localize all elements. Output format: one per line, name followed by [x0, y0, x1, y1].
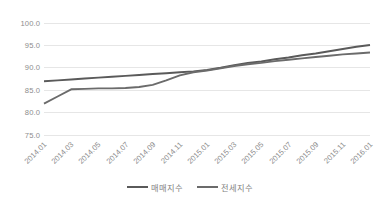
x-tick-label: 2014.07	[104, 140, 130, 166]
x-axis: 2014.012014.032014.052014.072014.092014.…	[0, 0, 380, 203]
legend-label: 전세지수	[221, 181, 253, 193]
x-tick-label: 2014.03	[50, 140, 76, 166]
legend-line-icon	[127, 186, 148, 188]
chart-legend: 매매지수전세지수	[0, 181, 380, 193]
legend-line-icon	[197, 186, 218, 188]
x-tick-label: 2016.01	[349, 140, 375, 166]
x-tick-label: 2015.07	[267, 140, 293, 166]
x-tick-label: 2015.01	[186, 140, 212, 166]
x-tick-label: 2014.09	[131, 140, 157, 166]
line-chart: 100.095.090.085.080.075.0 2014.012014.03…	[0, 0, 380, 203]
legend-label: 매매지수	[151, 181, 183, 193]
x-tick-label: 2014.11	[159, 140, 184, 165]
legend-entry-1[interactable]: 매매지수	[127, 181, 183, 193]
x-tick-label: 2015.11	[322, 140, 347, 165]
legend-entry-2[interactable]: 전세지수	[197, 181, 253, 193]
x-tick-label: 2015.05	[240, 140, 266, 166]
x-tick-label: 2014.05	[77, 140, 103, 166]
x-tick-label: 2015.03	[213, 140, 239, 166]
x-tick-label: 2014.01	[23, 140, 49, 166]
x-tick-label: 2015.09	[294, 140, 320, 166]
